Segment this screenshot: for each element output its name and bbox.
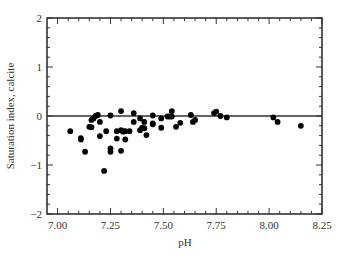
data-point — [103, 128, 109, 134]
y-tick-label: 1 — [37, 61, 43, 73]
data-point — [169, 114, 175, 120]
x-tick-label: 8.25 — [312, 219, 332, 231]
data-point — [89, 124, 95, 130]
data-point — [108, 149, 114, 155]
data-point — [150, 113, 156, 119]
data-point — [144, 132, 150, 138]
data-point — [122, 137, 128, 143]
y-axis-label: Saturation index, calcite — [4, 63, 16, 170]
y-tick-label: 2 — [37, 12, 43, 24]
data-point — [298, 123, 304, 129]
data-point — [97, 133, 103, 139]
data-point — [169, 108, 175, 114]
data-point — [67, 128, 73, 134]
data-point — [270, 115, 276, 121]
data-point — [118, 148, 124, 154]
x-axis-label: pH — [178, 236, 192, 248]
data-point — [78, 137, 84, 143]
data-point — [192, 117, 198, 123]
data-point — [158, 116, 164, 122]
data-point — [218, 113, 224, 119]
x-tick-label: 7.75 — [207, 219, 227, 231]
data-point — [177, 120, 183, 126]
x-tick-label: 7.25 — [101, 219, 121, 231]
data-point — [158, 125, 164, 131]
data-point — [82, 149, 88, 155]
y-tick-label: 0 — [37, 110, 43, 122]
data-point — [141, 125, 147, 131]
x-tick-label: 7.50 — [154, 219, 174, 231]
data-point — [150, 121, 156, 127]
x-tick-label: 8.00 — [259, 219, 279, 231]
data-point — [101, 168, 107, 174]
data-point — [97, 119, 103, 125]
y-tick-label: −2 — [30, 208, 42, 220]
data-point — [137, 116, 143, 122]
data-points — [67, 108, 303, 174]
data-point — [108, 113, 114, 119]
data-point — [131, 119, 137, 125]
data-point — [224, 115, 230, 121]
scatter-chart: 7.007.257.507.758.008.25 −2−1012 pH Satu… — [0, 0, 346, 259]
data-point — [173, 124, 179, 130]
data-point — [114, 136, 120, 142]
x-tick-label: 7.00 — [48, 219, 68, 231]
data-point — [213, 109, 219, 115]
data-point — [188, 112, 194, 118]
data-point — [275, 119, 281, 125]
data-point — [131, 110, 137, 116]
data-point — [95, 112, 101, 118]
y-tick-label: −1 — [30, 159, 42, 171]
data-point — [127, 128, 133, 134]
data-point — [118, 108, 124, 114]
